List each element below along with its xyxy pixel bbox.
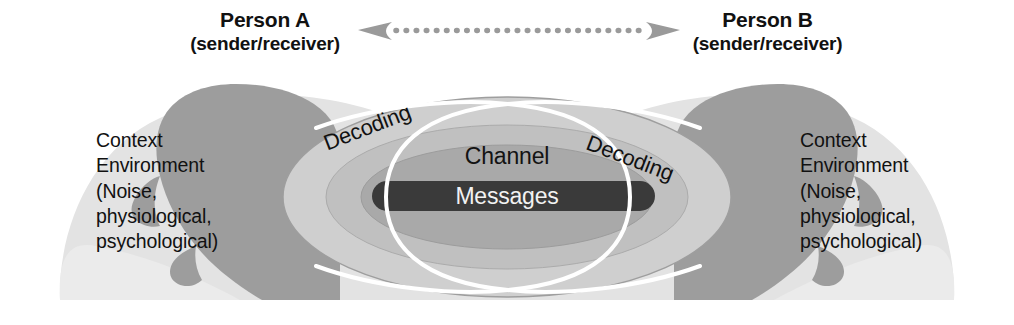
communication-model-diagram: Person A (sender/receiver) Person B (sen… [0, 0, 1014, 325]
messages-label: Messages [0, 183, 1014, 210]
person-b-label: Person B (sender/receiver) [650, 8, 885, 55]
person-b-role: (sender/receiver) [650, 33, 885, 55]
person-b-name: Person B [650, 8, 885, 33]
person-a-label: Person A (sender/receiver) [150, 8, 380, 55]
person-connector-arrow [358, 22, 680, 40]
person-a-role: (sender/receiver) [150, 33, 380, 55]
person-a-name: Person A [150, 8, 380, 33]
channel-label: Channel [0, 143, 1014, 170]
context-left-line-4: psychological) [96, 229, 218, 254]
context-right-line-4: psychological) [800, 229, 922, 254]
